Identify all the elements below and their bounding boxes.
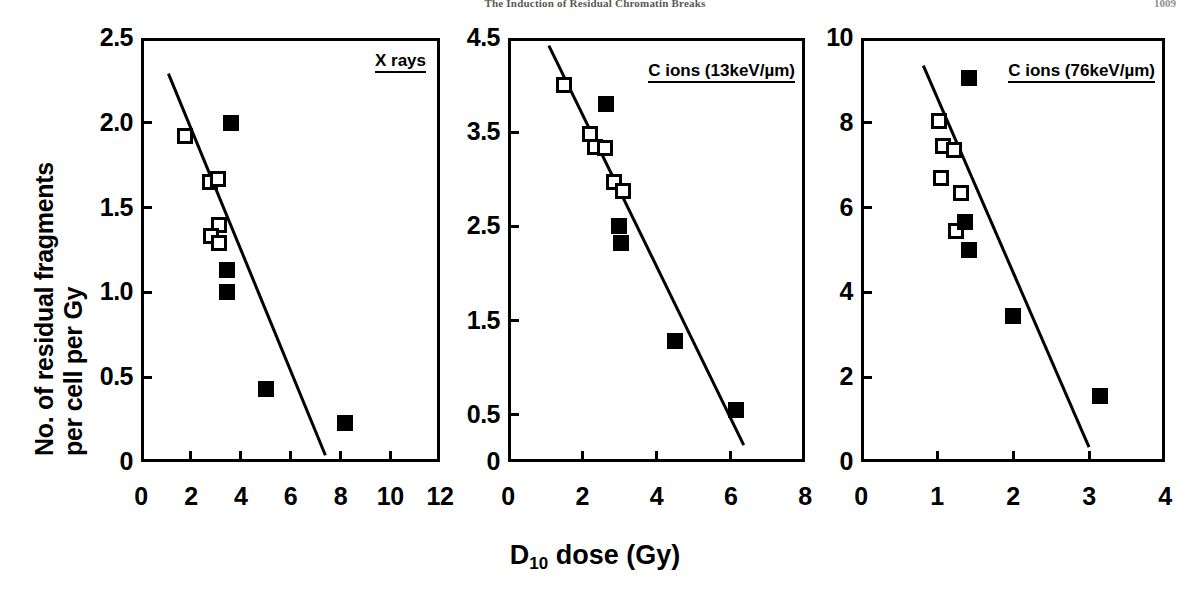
data-point-open-square xyxy=(597,140,613,156)
data-point-filled-square xyxy=(258,381,274,397)
y-tick-mark xyxy=(861,206,872,209)
plot-frame xyxy=(508,38,805,462)
x-tick-mark xyxy=(1012,451,1015,462)
x-tick-label: 0 xyxy=(483,484,533,509)
x-tick-label: 3 xyxy=(1064,484,1114,509)
y-axis-label-line1: No. of residual fragments xyxy=(30,162,59,456)
y-tick-mark xyxy=(508,131,519,134)
x-tick-label: 12 xyxy=(415,484,465,509)
data-point-open-square xyxy=(211,217,227,233)
data-point-filled-square xyxy=(667,333,683,349)
data-point-open-square xyxy=(946,142,962,158)
y-tick-label: 8 xyxy=(795,110,853,135)
panel-title: C ions (13keV/µm) xyxy=(648,62,795,83)
page-number: 1009 xyxy=(1154,0,1176,9)
y-tick-mark xyxy=(141,121,152,124)
data-point-filled-square xyxy=(728,402,744,418)
y-tick-label: 4 xyxy=(795,279,853,304)
fit-line xyxy=(0,0,1190,606)
data-point-open-square xyxy=(177,128,193,144)
x-tick-label: 0 xyxy=(116,484,166,509)
panel-title: C ions (76keV/µm) xyxy=(1008,62,1155,83)
data-point-filled-square xyxy=(961,70,977,86)
plot-frame xyxy=(861,38,1165,462)
y-axis-label: No. of residual fragments per cell per G… xyxy=(2,36,66,456)
fit-line xyxy=(0,0,1190,606)
data-point-filled-square xyxy=(1092,388,1108,404)
data-point-filled-square xyxy=(961,242,977,258)
x-tick-label: 4 xyxy=(632,484,682,509)
x-tick-mark xyxy=(289,451,292,462)
data-point-open-square xyxy=(582,126,598,142)
x-tick-mark xyxy=(239,451,242,462)
data-point-open-square xyxy=(556,77,572,93)
y-tick-label: 2.5 xyxy=(442,213,500,238)
y-tick-label: 2 xyxy=(795,364,853,389)
data-point-open-square xyxy=(953,185,969,201)
x-tick-mark xyxy=(655,451,658,462)
y-tick-mark xyxy=(508,225,519,228)
data-point-filled-square xyxy=(337,415,353,431)
data-point-filled-square xyxy=(219,262,235,278)
data-point-filled-square xyxy=(219,284,235,300)
y-tick-label: 0 xyxy=(442,449,500,474)
y-tick-label: 10 xyxy=(795,25,853,50)
data-point-filled-square xyxy=(223,115,239,131)
data-point-filled-square xyxy=(1005,308,1021,324)
x-tick-mark xyxy=(1088,451,1091,462)
x-tick-label: 6 xyxy=(266,484,316,509)
y-tick-label: 6 xyxy=(795,195,853,220)
x-tick-label: 4 xyxy=(1140,484,1190,509)
data-point-open-square xyxy=(933,170,949,186)
y-tick-mark xyxy=(861,376,872,379)
x-axis-label-suffix: dose (Gy) xyxy=(548,540,680,570)
data-point-open-square xyxy=(203,228,219,244)
data-point-open-square xyxy=(587,139,603,155)
plot-frame xyxy=(141,38,440,462)
data-point-open-square xyxy=(202,174,218,190)
data-point-filled-square xyxy=(957,214,973,230)
x-tick-label: 6 xyxy=(706,484,756,509)
x-tick-mark xyxy=(581,451,584,462)
y-tick-mark xyxy=(508,413,519,416)
x-tick-mark xyxy=(339,451,342,462)
chart-panel-x-rays: X rays00.51.01.52.02.5024681012 xyxy=(0,0,1190,606)
y-tick-label: 2.5 xyxy=(75,25,133,50)
x-axis-label-subscript: 10 xyxy=(529,554,548,573)
data-point-open-square xyxy=(606,174,622,190)
x-tick-label: 2 xyxy=(988,484,1038,509)
y-tick-label: 1.5 xyxy=(75,195,133,220)
y-tick-label: 0 xyxy=(795,449,853,474)
running-head: The Induction of Residual Chromatin Brea… xyxy=(0,0,1190,9)
y-tick-mark xyxy=(141,376,152,379)
data-point-filled-square xyxy=(598,96,614,112)
panel-title: X rays xyxy=(375,52,426,73)
y-tick-label: 2.0 xyxy=(75,110,133,135)
x-axis-label-prefix: D xyxy=(510,540,530,570)
data-point-open-square xyxy=(935,138,951,154)
chart-panel-c-ions-76: C ions (76keV/µm)024681001234 xyxy=(0,0,1190,606)
y-tick-mark xyxy=(861,121,872,124)
x-tick-mark xyxy=(729,451,732,462)
figure-root: The Induction of Residual Chromatin Brea… xyxy=(0,0,1190,606)
data-point-open-square xyxy=(931,113,947,129)
x-tick-label: 10 xyxy=(365,484,415,509)
y-tick-label: 0.5 xyxy=(442,402,500,427)
x-tick-label: 0 xyxy=(836,484,886,509)
y-tick-mark xyxy=(141,291,152,294)
data-point-open-square xyxy=(615,183,631,199)
x-tick-label: 2 xyxy=(166,484,216,509)
x-tick-label: 2 xyxy=(557,484,607,509)
y-tick-label: 3.5 xyxy=(442,119,500,144)
y-tick-mark xyxy=(141,206,152,209)
data-point-open-square xyxy=(211,235,227,251)
x-tick-label: 4 xyxy=(216,484,266,509)
y-tick-mark xyxy=(861,291,872,294)
x-tick-label: 8 xyxy=(315,484,365,509)
fit-line xyxy=(0,0,1190,606)
data-point-open-square xyxy=(210,171,226,187)
y-axis-label-line2: per cell per Gy xyxy=(59,287,88,456)
y-tick-mark xyxy=(508,319,519,322)
data-point-open-square xyxy=(948,223,964,239)
x-tick-label: 8 xyxy=(780,484,830,509)
